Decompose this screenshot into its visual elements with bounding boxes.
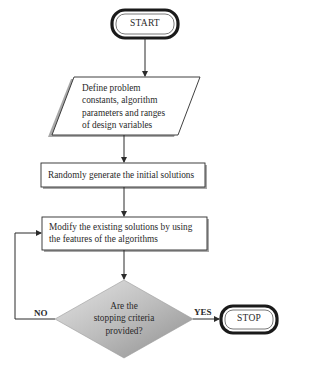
- no-label: NO: [34, 308, 48, 318]
- define-line-3: parameters and ranges: [82, 107, 202, 119]
- define-line-2: constants, algorithm: [82, 94, 202, 106]
- decision-line-1: Are the: [79, 300, 169, 312]
- start-label: START: [112, 18, 178, 28]
- decision-line-2: stopping criteria: [79, 312, 169, 324]
- stop-label: STOP: [221, 313, 277, 323]
- decision-text: Are the stopping criteria provided?: [79, 300, 169, 337]
- define-text: Define problem constants, algorithm para…: [82, 82, 202, 132]
- decision-line-3: provided?: [79, 325, 169, 337]
- modify-text: Modify the existing solutions by using t…: [49, 221, 209, 246]
- define-line-1: Define problem: [82, 82, 202, 94]
- yes-label: YES: [194, 307, 212, 317]
- modify-line-2: the features of the algorithms: [49, 233, 209, 245]
- generate-label: Randomly generate the initial solutions: [48, 169, 208, 181]
- modify-line-1: Modify the existing solutions by using: [49, 221, 209, 233]
- define-line-4: of design variables: [82, 119, 202, 131]
